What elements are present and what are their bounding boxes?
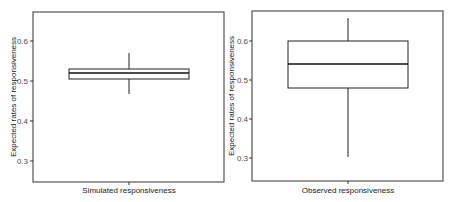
y-tick-label: 0.3 bbox=[237, 154, 249, 163]
y-tick-label: 0.6 bbox=[17, 37, 29, 46]
boxplot-observed: Expected rates of responsiveness 0.6 0.5… bbox=[228, 0, 456, 202]
box-observed bbox=[288, 18, 408, 157]
y-axis-title: Expected rates of responsiveness bbox=[9, 37, 18, 157]
boxplot-simulated: Expected rates of responsiveness 0.6 0.5… bbox=[0, 0, 228, 202]
y-tick-label: 0.6 bbox=[237, 37, 249, 46]
x-axis-title: Simulated responsiveness bbox=[82, 186, 175, 195]
y-axis-ticks: 0.6 0.5 0.4 0.3 bbox=[17, 37, 33, 166]
chart-panel-simulated: Expected rates of responsiveness 0.6 0.5… bbox=[0, 0, 228, 202]
y-tick-label: 0.5 bbox=[17, 77, 29, 86]
box-simulated bbox=[69, 53, 189, 94]
y-tick-label: 0.5 bbox=[237, 76, 249, 85]
plot-frame bbox=[33, 12, 224, 182]
iqr-box bbox=[69, 69, 189, 79]
y-tick-label: 0.4 bbox=[17, 117, 29, 126]
y-axis-ticks: 0.6 0.5 0.4 0.3 bbox=[237, 37, 252, 163]
chart-panel-observed: Expected rates of responsiveness 0.6 0.5… bbox=[228, 0, 456, 202]
y-axis-title: Expected rates of responsiveness bbox=[228, 36, 236, 156]
y-tick-label: 0.4 bbox=[237, 115, 249, 124]
x-axis-title: Observed responsiveness bbox=[302, 186, 395, 195]
y-tick-label: 0.3 bbox=[17, 157, 29, 166]
